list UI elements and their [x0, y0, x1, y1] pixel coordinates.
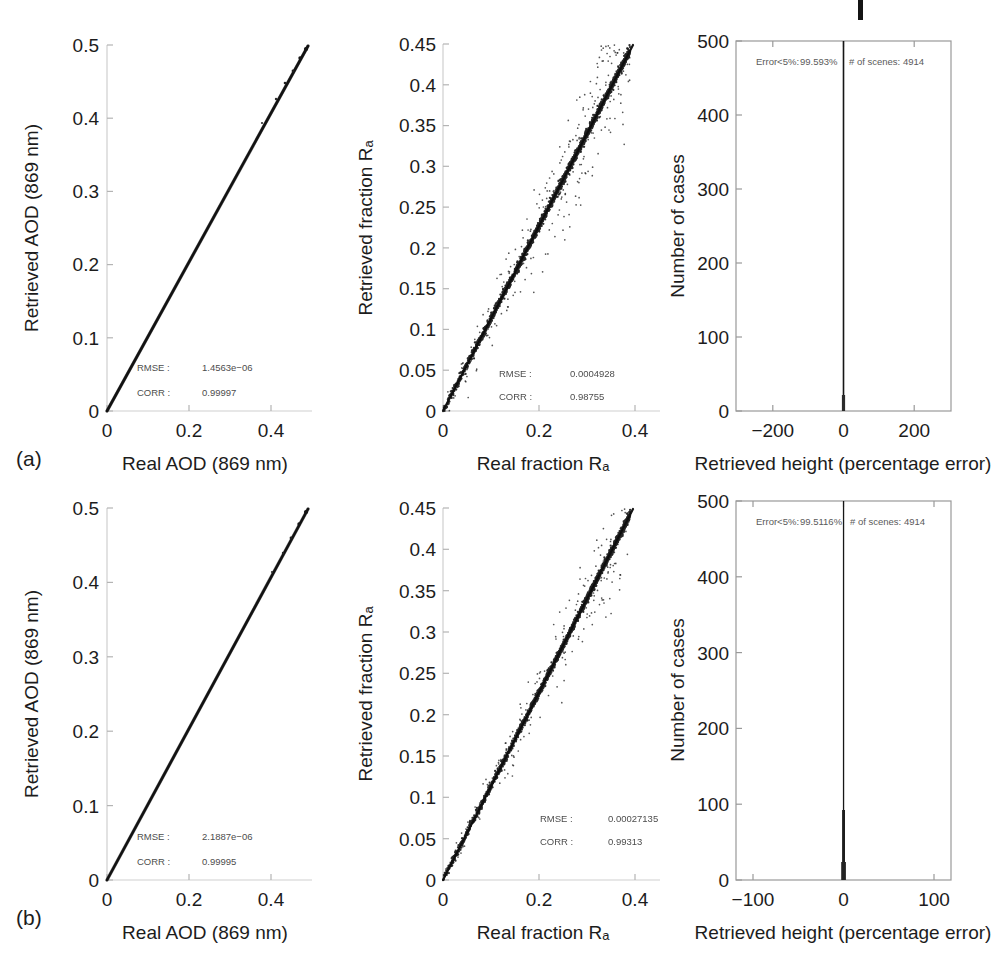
svg-text:0.05: 0.05	[399, 829, 436, 850]
x-axis-label-a-fraction: Real fraction Rₐ	[477, 453, 611, 474]
svg-text:RMSE :: RMSE :	[137, 362, 170, 373]
y-axis-label-a-fraction: Retrieved fraction Rₐ	[355, 140, 376, 316]
svg-text:1.4563e−06: 1.4563e−06	[202, 362, 252, 373]
svg-text:0: 0	[838, 420, 849, 441]
histogram-spike-a	[842, 41, 845, 411]
svg-text:100: 100	[697, 327, 729, 348]
data-b-fraction	[442, 508, 633, 881]
svg-text:0.2: 0.2	[73, 721, 99, 742]
svg-text:4914: 4914	[903, 56, 924, 67]
svg-text:0: 0	[438, 420, 449, 441]
panel-b-height-histogram: 500 400 300 200 100 0 −100 0 100 Retriev…	[660, 480, 996, 962]
svg-text:2.1887e−06: 2.1887e−06	[202, 831, 252, 842]
svg-text:500: 500	[697, 31, 729, 52]
svg-text:Error<5%:: Error<5%:	[756, 516, 799, 527]
panel-a-aod-scatter: 0.5 0.4 0.3 0.2 0.1 0 0 0.2 0.4 Real AOD…	[0, 0, 330, 480]
panel-tag-b: (b)	[16, 906, 42, 930]
svg-text:500: 500	[697, 491, 729, 512]
svg-text:0.45: 0.45	[399, 34, 436, 55]
x-tick-labels-a-fraction: 0 0.2 0.4	[438, 420, 649, 441]
histogram-spike-b	[841, 501, 846, 880]
y-tick-labels-a-fraction: 0.45 0.4 0.35 0.3 0.25 0.2 0.15 0.1 0.05…	[399, 34, 436, 422]
y-ticks-b-aod	[107, 508, 113, 880]
svg-text:0.1: 0.1	[410, 319, 436, 340]
x-axis-label-b-aod: Real AOD (869 nm)	[122, 922, 288, 943]
svg-text:CORR :: CORR :	[137, 387, 170, 398]
svg-text:100: 100	[918, 889, 950, 910]
svg-text:0: 0	[425, 401, 436, 422]
panel-b-aod-svg: 0.5 0.4 0.3 0.2 0.1 0 0 0.2 0.4 Real AOD…	[0, 480, 330, 962]
svg-text:0: 0	[102, 889, 113, 910]
svg-text:# of scenes:: # of scenes:	[849, 56, 900, 67]
svg-text:0: 0	[838, 889, 849, 910]
svg-text:99.5116%: 99.5116%	[800, 516, 843, 527]
y-ticks-a-aod	[107, 45, 113, 411]
svg-text:0.4: 0.4	[73, 572, 100, 593]
stats-b-aod: RMSE : 2.1887e−06 CORR : 0.99995	[137, 831, 252, 867]
svg-text:0.99997: 0.99997	[202, 387, 236, 398]
svg-text:0.3: 0.3	[73, 647, 99, 668]
x-axis-label-a-hist: Retrieved height (percentage error)	[695, 453, 992, 474]
svg-text:0.35: 0.35	[399, 115, 436, 136]
data-b-aod	[107, 509, 308, 880]
svg-text:0.2: 0.2	[410, 238, 436, 259]
svg-text:400: 400	[697, 105, 729, 126]
y-ticks-b-hist	[736, 501, 742, 880]
y-axis-label-a-hist: Number of cases	[667, 154, 688, 298]
svg-text:0.5: 0.5	[73, 498, 99, 519]
axes-a-fraction	[443, 44, 660, 411]
x-tick-labels-a-hist: −200 0 200	[751, 420, 930, 441]
svg-text:99.593%: 99.593%	[800, 56, 838, 67]
panel-a-aod-svg: 0.5 0.4 0.3 0.2 0.1 0 0 0.2 0.4 Real AOD…	[0, 0, 330, 480]
x-ticks-a-fraction	[443, 405, 635, 411]
svg-text:0.1: 0.1	[410, 787, 436, 808]
svg-text:0.35: 0.35	[399, 581, 436, 602]
x-label-main-a-fraction: Real fraction Rₐ	[477, 453, 611, 474]
svg-text:Retrieved fraction Rₐ: Retrieved fraction Rₐ	[355, 140, 376, 316]
y-tick-labels-b-hist: 500 400 300 200 100 0	[697, 491, 729, 891]
svg-text:200: 200	[898, 420, 930, 441]
y-tick-labels-a-aod: 0.5 0.4 0.3 0.2 0.1 0	[73, 35, 100, 422]
svg-text:300: 300	[697, 643, 729, 664]
svg-text:0.4: 0.4	[73, 108, 100, 129]
axes-b-fraction	[443, 508, 660, 880]
y-label-main-a-fraction: Retrieved fraction Rₐ	[355, 140, 376, 316]
data-a-fraction	[443, 44, 633, 412]
svg-text:−200: −200	[751, 420, 794, 441]
svg-text:0: 0	[718, 401, 729, 422]
panel-b-aod-scatter: 0.5 0.4 0.3 0.2 0.1 0 0 0.2 0.4 Real AOD…	[0, 480, 330, 962]
stats-a-fraction: RMSE : 0.0004928 CORR : 0.98755	[499, 368, 615, 402]
y-tick-labels-b-fraction: 0.45 0.4 0.35 0.3 0.25 0.2 0.15 0.1 0.05…	[399, 498, 436, 891]
y-tick-labels-b-aod: 0.5 0.4 0.3 0.2 0.1 0	[73, 498, 100, 891]
y-tick-labels-a-hist: 500 400 300 200 100 0	[697, 31, 729, 422]
y-axis-label-b-hist: Number of cases	[667, 618, 688, 762]
x-axis-label-b-hist: Retrieved height (percentage error)	[695, 922, 992, 943]
svg-text:0.3: 0.3	[410, 622, 436, 643]
svg-text:CORR :: CORR :	[137, 856, 170, 867]
x-ticks-a-aod	[107, 405, 271, 411]
svg-text:200: 200	[697, 253, 729, 274]
svg-text:RMSE :: RMSE :	[540, 813, 573, 824]
svg-text:0.05: 0.05	[399, 360, 436, 381]
y-axis-label-a-aod: Retrieved AOD (869 nm)	[21, 124, 42, 332]
x-axis-label-b-fraction: Real fraction Rₐ	[477, 922, 611, 943]
svg-text:RMSE :: RMSE :	[137, 831, 170, 842]
x-tick-labels-b-hist: −100 0 100	[732, 889, 950, 910]
svg-text:300: 300	[697, 179, 729, 200]
svg-text:400: 400	[697, 567, 729, 588]
panel-a-height-histogram: 500 400 300 200 100 0 −200 0 200 Retriev…	[660, 0, 996, 480]
svg-text:0: 0	[425, 870, 436, 891]
hist-annotation-b: Error<5%: 99.5116% # of scenes: 4914	[756, 516, 925, 527]
svg-text:0.0004928: 0.0004928	[570, 368, 615, 379]
svg-text:0.1: 0.1	[73, 796, 99, 817]
panel-b-fraction-scatter: 0.45 0.4 0.35 0.3 0.25 0.2 0.15 0.1 0.05…	[330, 480, 660, 962]
svg-text:0.4: 0.4	[622, 889, 649, 910]
svg-text:Error<5%:: Error<5%:	[756, 56, 799, 67]
svg-text:0.2: 0.2	[176, 889, 202, 910]
svg-text:0.4: 0.4	[258, 420, 285, 441]
data-a-aod	[107, 46, 308, 411]
svg-text:0.25: 0.25	[399, 663, 436, 684]
svg-text:0.25: 0.25	[399, 197, 436, 218]
svg-text:0.99313: 0.99313	[608, 836, 642, 847]
svg-text:0: 0	[102, 420, 113, 441]
